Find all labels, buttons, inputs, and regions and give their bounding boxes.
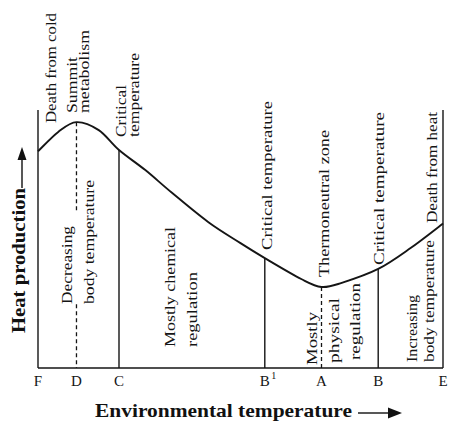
x-axis-title: Environmental temperature [95,400,352,421]
annotation-mostly-physical-regulation-line1: Mostly [304,311,320,365]
annotation-mostly-physical-regulation-line2: physical [326,298,342,363]
annotation-critical-temperature-b1: Critical temperature [259,101,275,250]
annotation-decreasing-body-temperature-line1: Decreasing [59,225,75,304]
annotation-increasing-body-temperature-line2: body temperature [421,240,437,362]
annotation-critical-temperature-c-line2: temperature [126,53,142,137]
annotation-summit-metabolism-line2: metabolism [76,30,92,113]
tick-label-e: E [438,373,447,389]
tick-label-c: C [114,373,124,389]
heat-production-chart: Death from cold Summit metabolism Critic… [0,0,460,430]
annotation-death-from-heat: Death from heat [424,111,440,223]
tick-label-f: F [34,373,42,389]
annotation-increasing-body-temperature-line1: Increasing [404,294,420,362]
tick-label-a: A [316,373,327,389]
y-axis-title: Heat production [9,188,29,333]
tick-label-b: B [373,373,383,389]
annotation-decreasing-body-temperature-line2: body temperature [81,180,97,304]
annotation-death-from-cold: Death from cold [43,12,59,123]
annotation-mostly-chemical-regulation-line2: regulation [184,271,200,347]
annotation-mostly-physical-regulation-line3: regulation [347,282,363,360]
annotation-critical-temperature-b: Critical temperature [371,112,387,265]
annotation-mostly-chemical-regulation-line1: Mostly chemical [162,227,178,347]
annotation-thermoneutral-zone: Thermoneutral zone [316,130,332,277]
tick-label-b1-superscript: 1 [271,370,276,381]
tick-label-d: D [71,373,82,389]
tick-label-b1: B [260,373,270,389]
